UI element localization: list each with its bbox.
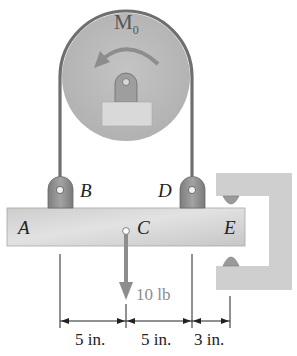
dim-label-BC: 5 in. xyxy=(75,330,105,350)
load-label: 10 lb xyxy=(136,285,170,305)
pin-C xyxy=(123,228,130,235)
dim-label-CD: 5 in. xyxy=(141,330,171,350)
label-B: B xyxy=(80,180,92,202)
moment-label: M0 xyxy=(114,10,139,38)
label-E: E xyxy=(224,217,236,239)
moment-symbol: M xyxy=(114,10,133,34)
lower-roller xyxy=(223,257,239,266)
bracket-D xyxy=(180,177,205,209)
label-C: C xyxy=(137,217,150,239)
label-A: A xyxy=(18,217,30,239)
label-D: D xyxy=(158,180,172,202)
upper-roller xyxy=(223,196,239,204)
bracket-B xyxy=(48,177,73,208)
moment-subscript: 0 xyxy=(133,23,139,37)
dim-label-DE: 3 in. xyxy=(194,330,224,350)
